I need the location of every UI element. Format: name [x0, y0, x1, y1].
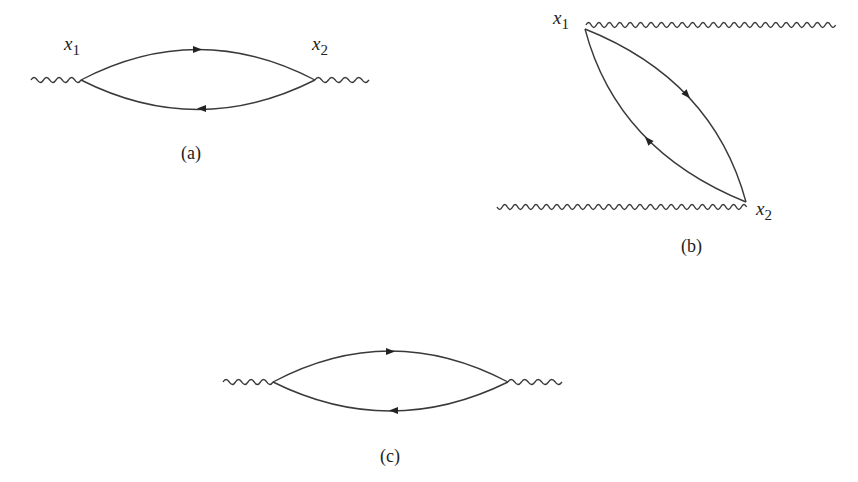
vertex-label-x2: x2	[312, 33, 328, 59]
arrow-right-icon	[193, 46, 202, 53]
photon-line-top	[586, 23, 836, 28]
photon-line-left	[223, 380, 273, 385]
fermion-arc-right	[585, 29, 746, 202]
fermion-arc-bottom	[273, 382, 508, 411]
arrow-left-icon	[389, 407, 398, 414]
photon-line-bottom	[497, 205, 747, 210]
caption-b: (b)	[681, 236, 702, 257]
vertex-label-x1: x1	[64, 33, 80, 59]
photon-line-right	[315, 78, 369, 83]
caption-c: (c)	[380, 446, 400, 467]
label-sub: 1	[72, 42, 80, 58]
feynman-diagrams	[0, 0, 858, 482]
vertex-label-x2: x2	[756, 198, 772, 224]
photon-line-right	[508, 380, 562, 385]
vertex-label-x1: x1	[553, 7, 569, 33]
panel-c	[223, 348, 562, 414]
label-sub: 2	[764, 207, 772, 223]
arrow-right-icon	[386, 348, 395, 355]
arrow-left-icon	[197, 105, 206, 112]
fermion-arc-bottom	[81, 80, 315, 110]
fermion-arc-top	[81, 50, 315, 81]
photon-line-left	[31, 78, 81, 83]
fermion-arc-left	[585, 29, 746, 202]
label-sub: 2	[320, 42, 328, 58]
label-sub: 1	[561, 16, 569, 32]
panel-b	[497, 23, 836, 210]
fermion-arc-top	[273, 351, 508, 382]
caption-a: (a)	[181, 143, 201, 164]
